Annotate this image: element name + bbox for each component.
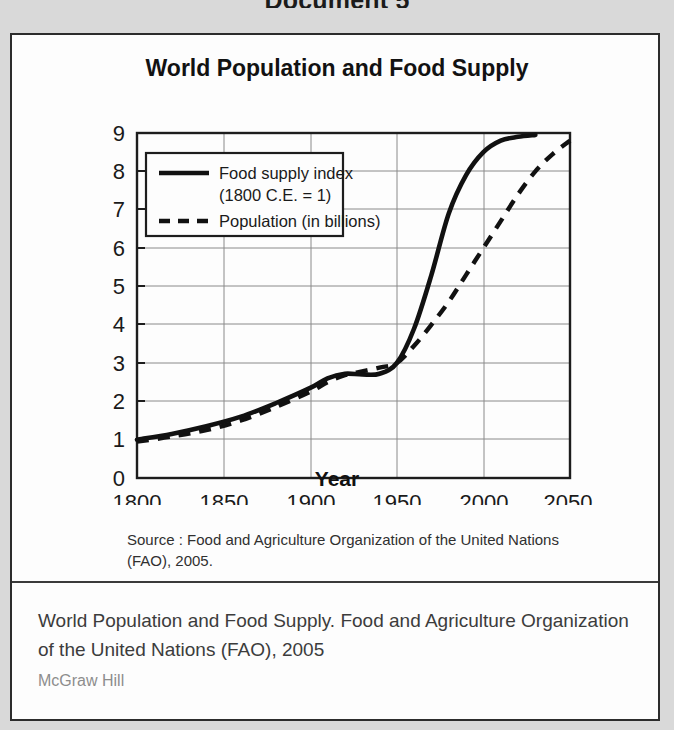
y-tick-9: 9 [113, 121, 125, 146]
x-tick-1800: 1800 [113, 490, 162, 505]
y-tick-2: 2 [113, 389, 125, 414]
y-axis-labels: 9 8 7 6 5 4 3 2 1 0 [113, 121, 125, 491]
y-tick-8: 8 [113, 159, 125, 184]
y-tick-4: 4 [113, 312, 125, 337]
legend-label-population: Population (in billions) [219, 212, 380, 230]
figure-area: World Population and Food Supply [12, 35, 658, 581]
caption-credit: McGraw Hill [38, 672, 638, 690]
document-heading: Document 5 [0, 0, 674, 8]
legend-label-food-line2: (1800 C.E. = 1) [219, 186, 331, 204]
x-tick-1950: 1950 [373, 490, 422, 505]
x-tick-1900: 1900 [287, 490, 336, 505]
line-chart-svg: 9 8 7 6 5 4 3 2 1 0 1800 1850 1900 1950 [12, 35, 662, 505]
y-tick-6: 6 [113, 236, 125, 261]
figure-source-note: Source : Food and Agriculture Organizati… [127, 529, 597, 572]
document-box: World Population and Food Supply [10, 33, 660, 721]
y-tick-5: 5 [113, 274, 125, 299]
chart-legend: Food supply index (1800 C.E. = 1) Popula… [146, 153, 380, 236]
x-axis-title: Year [12, 467, 662, 491]
y-tick-1: 1 [113, 427, 125, 452]
caption-text: World Population and Food Supply. Food a… [38, 607, 638, 665]
y-tick-3: 3 [113, 351, 125, 376]
x-tick-1850: 1850 [200, 490, 249, 505]
caption-block: World Population and Food Supply. Food a… [38, 607, 638, 690]
x-tick-2000: 2000 [460, 490, 509, 505]
y-tick-7: 7 [113, 197, 125, 222]
chart-plot-area: 9 8 7 6 5 4 3 2 1 0 1800 1850 1900 1950 [12, 35, 662, 505]
x-tick-2050: 2050 [544, 490, 593, 505]
section-divider [12, 581, 658, 583]
x-axis-labels: 1800 1850 1900 1950 2000 2050 [113, 490, 593, 505]
legend-label-food-line1: Food supply index [219, 164, 354, 182]
